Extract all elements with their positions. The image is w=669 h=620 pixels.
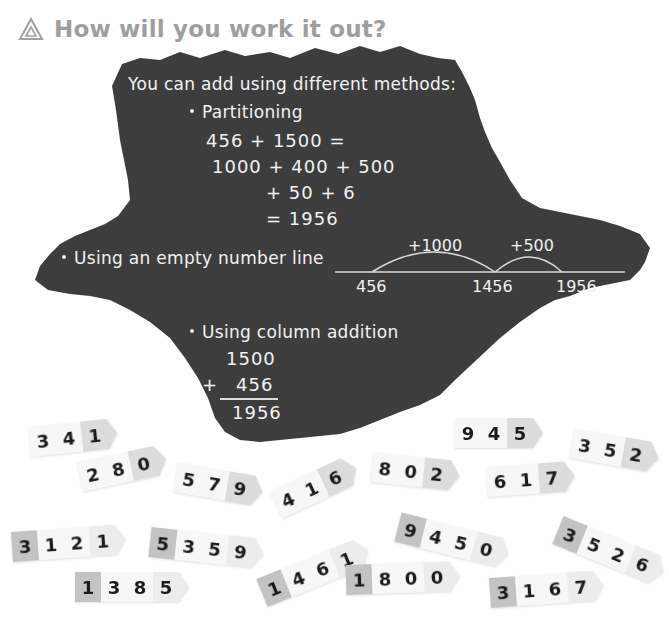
card-digit: 4 — [54, 422, 83, 455]
card-digit: 2 — [422, 458, 451, 491]
number-card[interactable]: 945 — [455, 418, 533, 448]
card-digit: 1 — [80, 419, 109, 452]
card-digit: 5 — [148, 527, 177, 560]
card-digit: 1 — [515, 574, 543, 606]
jump-label-500: +500 — [510, 236, 554, 255]
card-digit: 1 — [512, 463, 540, 495]
card-digit: 3 — [101, 572, 127, 602]
card-digit: 8 — [127, 572, 153, 602]
number-card[interactable]: 1385 — [75, 572, 179, 602]
card-digit: 5 — [153, 572, 179, 602]
number-card[interactable]: 1800 — [345, 561, 450, 595]
column-addition-label: Using column addition — [190, 322, 399, 342]
number-line-label-text: Using an empty number line — [74, 248, 324, 268]
card-digit: 3 — [28, 424, 57, 457]
card-digit: 0 — [470, 531, 502, 566]
column-result: 1956 — [232, 402, 282, 423]
number-line-diagram — [330, 228, 630, 278]
card-digit: 2 — [621, 437, 652, 471]
column-divider — [220, 398, 278, 400]
card-digit: 1 — [75, 572, 101, 602]
mark-1456: 1456 — [472, 277, 513, 296]
card-digit: 5 — [200, 533, 229, 566]
bullet-icon — [62, 255, 66, 259]
mark-456: 456 — [356, 277, 387, 296]
card-digit: 6 — [486, 465, 514, 497]
card-digit: 3 — [174, 530, 203, 563]
card-digit: 0 — [423, 561, 450, 592]
number-line-label: Using an empty number line — [62, 248, 324, 268]
jump-label-1000: +1000 — [408, 236, 462, 255]
partition-line-3: + 50 + 6 — [266, 182, 356, 203]
card-digit: 1 — [37, 528, 65, 560]
card-digit: 9 — [226, 535, 255, 568]
card-digit: 8 — [370, 452, 399, 485]
column-plus: + — [202, 374, 218, 395]
bullet-icon — [190, 109, 194, 113]
partition-line-4: = 1956 — [266, 208, 339, 229]
partitioning-label-text: Partitioning — [202, 102, 303, 122]
card-digit: 4 — [481, 418, 507, 448]
bullet-icon — [190, 329, 194, 333]
card-digit: 9 — [225, 471, 256, 505]
column-top: 1500 — [226, 348, 276, 369]
partition-line-2: 1000 + 400 + 500 — [212, 156, 396, 177]
card-digit: 7 — [567, 571, 595, 603]
card-digit: 0 — [397, 562, 424, 593]
card-digit: 0 — [396, 455, 425, 488]
card-digit: 7 — [538, 462, 566, 494]
number-card[interactable]: 617 — [486, 462, 566, 497]
card-digit: 3 — [489, 576, 517, 608]
card-digit: 1 — [345, 564, 372, 595]
card-digit: 8 — [371, 563, 398, 594]
partition-line-1: 456 + 1500 = — [206, 130, 346, 151]
card-digit: 3 — [11, 530, 39, 562]
card-digit: 6 — [541, 573, 569, 605]
partitioning-label: Partitioning — [190, 102, 303, 122]
column-addition-label-text: Using column addition — [202, 322, 399, 342]
mark-1956: 1956 — [556, 277, 597, 296]
column-bottom: 456 — [236, 374, 273, 395]
card-digit: 2 — [63, 527, 91, 559]
card-digit: 1 — [89, 525, 117, 557]
card-digit: 0 — [128, 446, 160, 481]
card-digit: 5 — [507, 418, 533, 448]
card-digit: 9 — [455, 418, 481, 448]
intro-text: You can add using different methods: — [128, 74, 456, 94]
